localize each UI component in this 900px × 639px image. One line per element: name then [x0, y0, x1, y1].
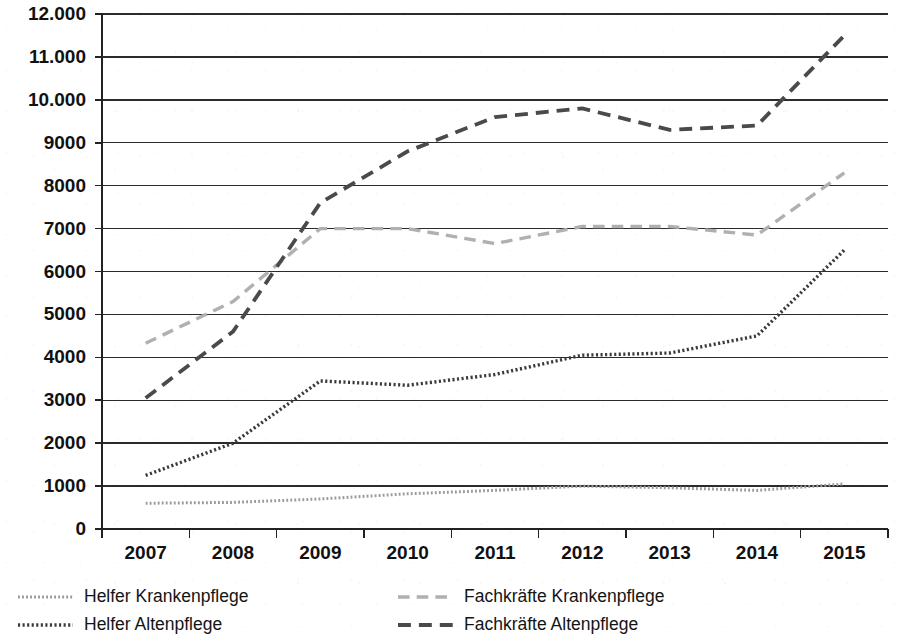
series-line — [146, 484, 845, 503]
series-line — [146, 35, 845, 398]
y-tick-label: 12.000 — [28, 3, 86, 24]
y-tick-label: 0 — [75, 518, 86, 539]
y-tick-label: 2000 — [44, 432, 86, 453]
legend-item[interactable]: Helfer Altenpflege — [18, 614, 222, 634]
x-tickmarks-group — [102, 529, 888, 538]
y-tick-label: 5000 — [44, 303, 86, 324]
series-line — [146, 173, 845, 343]
y-tick-label: 8000 — [44, 175, 86, 196]
x-tick-label: 2014 — [736, 542, 779, 563]
legend-label: Helfer Krankenpflege — [84, 586, 248, 606]
y-tick-label: 10.000 — [28, 89, 86, 110]
x-axis-tick-labels: 200720082009201020112012201320142015 — [125, 542, 866, 563]
legend-label: Helfer Altenpflege — [84, 614, 222, 634]
gridlines-group — [102, 14, 888, 486]
x-tick-label: 2007 — [125, 542, 167, 563]
y-tick-label: 11.000 — [29, 46, 86, 67]
x-tick-label: 2013 — [649, 542, 691, 563]
x-tick-label: 2015 — [823, 542, 866, 563]
chart-legend: Helfer KrankenpflegeFachkräfte Krankenpf… — [18, 586, 664, 634]
legend-label: Fachkräfte Altenpflege — [464, 614, 638, 634]
y-axis-tick-labels: 010002000300040005000600070008000900010.… — [28, 3, 102, 539]
legend-item[interactable]: Fachkräfte Altenpflege — [398, 614, 638, 634]
legend-item[interactable]: Fachkräfte Krankenpflege — [398, 586, 664, 606]
y-tick-label: 3000 — [44, 389, 86, 410]
x-tick-label: 2009 — [299, 542, 341, 563]
line-chart: 010002000300040005000600070008000900010.… — [0, 0, 900, 639]
chart-canvas: 010002000300040005000600070008000900010.… — [0, 0, 900, 639]
y-tick-label: 7000 — [44, 218, 86, 239]
data-series-group — [146, 35, 845, 503]
y-tick-label: 9000 — [44, 132, 86, 153]
y-tick-label: 1000 — [44, 475, 86, 496]
y-tick-label: 4000 — [44, 346, 86, 367]
legend-label: Fachkräfte Krankenpflege — [464, 586, 664, 606]
series-line — [146, 250, 845, 475]
y-tick-label: 6000 — [44, 261, 86, 282]
legend-item[interactable]: Helfer Krankenpflege — [18, 586, 248, 606]
x-tick-label: 2012 — [561, 542, 603, 563]
x-tick-label: 2008 — [212, 542, 254, 563]
x-tick-label: 2010 — [387, 542, 429, 563]
x-tick-label: 2011 — [474, 542, 516, 563]
